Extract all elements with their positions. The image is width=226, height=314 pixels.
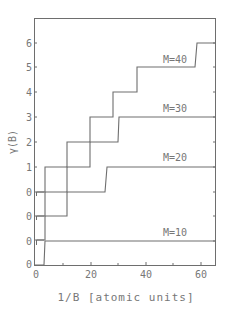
y-tick-label: 6 bbox=[26, 38, 32, 49]
x-tick-label: 0 bbox=[33, 269, 39, 280]
step-chart: 6 5 4 3 2 1 0 0 0 0 0 20 40 60 M=40 M=30… bbox=[0, 0, 226, 314]
step-curves bbox=[35, 43, 215, 265]
y-tick-label: 5 bbox=[26, 62, 32, 73]
y-tick-label: 4 bbox=[26, 87, 32, 98]
curve-m20 bbox=[35, 167, 215, 240]
x-tick-labels: 0 20 40 60 bbox=[33, 269, 207, 280]
series-label-m30: M=30 bbox=[163, 103, 187, 114]
zero-label: 0 bbox=[26, 236, 32, 247]
y-tick-label: 2 bbox=[26, 137, 32, 148]
plot-frame bbox=[35, 19, 216, 266]
y-ticks bbox=[35, 43, 216, 241]
x-tick-label: 20 bbox=[85, 269, 97, 280]
y-axis-title: γ(B) bbox=[7, 130, 18, 154]
y-tick-label: 3 bbox=[26, 112, 32, 123]
zero-label: 0 bbox=[26, 259, 32, 270]
y-tick-label: 1 bbox=[26, 162, 32, 173]
series-label-m20: M=20 bbox=[163, 152, 187, 163]
zero-label: 0 bbox=[26, 187, 32, 198]
x-tick-label: 40 bbox=[140, 269, 152, 280]
offset-markers bbox=[37, 192, 45, 245]
x-ticks bbox=[63, 262, 201, 266]
series-labels: M=40 M=30 M=20 M=10 bbox=[163, 54, 187, 238]
x-tick-label: 60 bbox=[195, 269, 207, 280]
series-label-m10: M=10 bbox=[163, 227, 187, 238]
zero-label: 0 bbox=[26, 211, 32, 222]
series-label-m40: M=40 bbox=[163, 54, 187, 65]
y-tick-labels: 6 5 4 3 2 1 0 0 0 0 bbox=[26, 38, 32, 271]
curve-m10 bbox=[35, 241, 215, 265]
x-axis-title: 1/B [atomic units] bbox=[57, 291, 194, 304]
